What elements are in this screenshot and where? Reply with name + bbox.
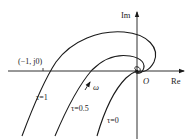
critical-point-label: (−1, j0) xyxy=(18,57,42,66)
origin-point xyxy=(136,70,138,72)
curve-label-tau-1: τ=1 xyxy=(36,93,48,102)
origin-label: O xyxy=(143,76,149,86)
curve-label-tau-0.5: τ=0.5 xyxy=(71,104,89,113)
omega-label: ω xyxy=(93,82,99,92)
curve-label-tau-0: τ=0 xyxy=(107,116,119,125)
imaginary-axis-label: Im xyxy=(121,10,131,20)
curve-tau-0 xyxy=(97,71,137,136)
curve-tau-0.5 xyxy=(55,56,144,136)
nyquist-diagram: Im Re O (−1, j0) ω τ=1 τ=0.5 τ=0 xyxy=(0,0,191,139)
real-axis-label: Re xyxy=(171,76,181,86)
omega-direction-arrow xyxy=(85,82,90,90)
